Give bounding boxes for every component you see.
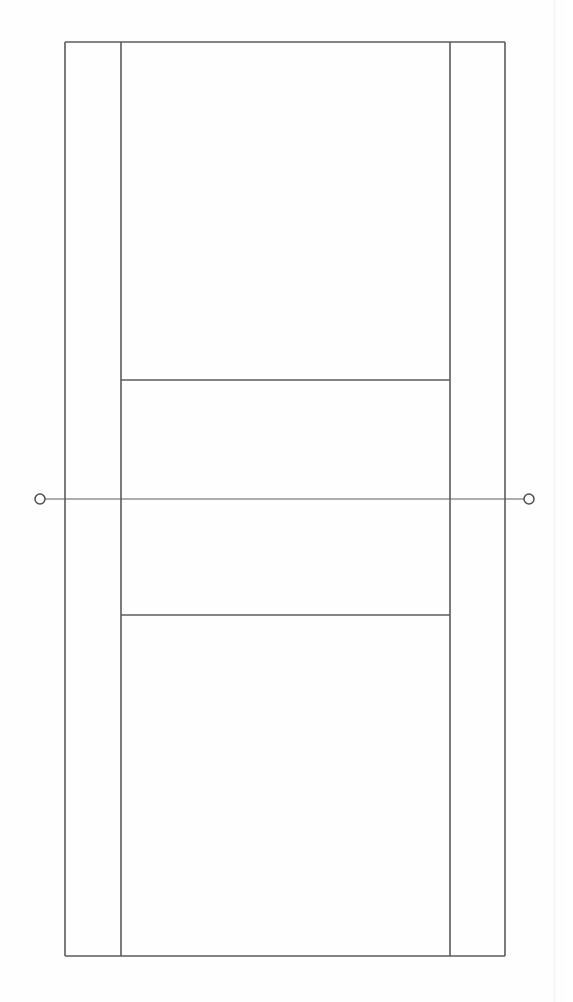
diagram-background	[0, 0, 573, 1002]
court-diagram-page: Tennis Court Diagram	[0, 0, 573, 1002]
net-post-left-icon	[35, 494, 45, 504]
tennis-court-diagram	[0, 0, 573, 1002]
net-post-right-icon	[524, 494, 534, 504]
